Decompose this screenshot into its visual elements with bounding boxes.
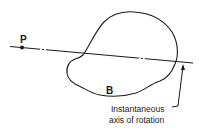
annotation-line-1: Instantaneous [111, 104, 164, 114]
point-p-label: P [20, 34, 27, 45]
arrowhead-icon [181, 64, 185, 70]
annotation-line-2: axis of rotation [109, 115, 165, 125]
body-outline [67, 12, 178, 96]
point-p-dot [20, 46, 24, 50]
leader-line [172, 66, 183, 107]
axis-line [10, 47, 193, 64]
body-b-label: B [106, 85, 113, 96]
rigid-body-diagram: P B Instantaneous axis of rotation [0, 0, 199, 134]
